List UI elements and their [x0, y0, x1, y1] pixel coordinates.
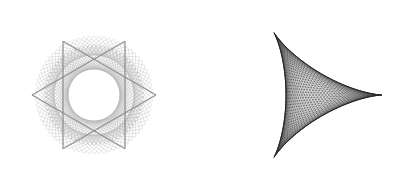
figure-canvas	[0, 0, 407, 184]
deltoid-figure	[0, 0, 407, 184]
